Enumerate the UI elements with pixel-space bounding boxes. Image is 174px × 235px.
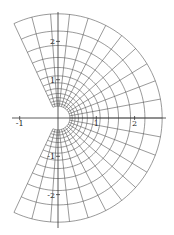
x-tick-label: 1 bbox=[94, 119, 99, 128]
mesh-spoke bbox=[65, 127, 121, 200]
mesh-spoke bbox=[68, 64, 147, 112]
mesh-spoke bbox=[65, 36, 121, 109]
polar-mesh-plot: -11221-1-2 bbox=[0, 0, 174, 235]
y-tick-label: -2 bbox=[47, 191, 55, 200]
mesh-spoke bbox=[70, 99, 161, 116]
y-tick-label: 1 bbox=[50, 76, 55, 85]
mesh-spoke bbox=[14, 24, 53, 108]
y-tick-label: -1 bbox=[47, 152, 55, 161]
mesh-spoke bbox=[70, 120, 161, 137]
mesh-spoke bbox=[67, 49, 136, 111]
axes bbox=[12, 12, 166, 228]
mesh-spoke bbox=[59, 130, 69, 222]
mesh-spoke bbox=[67, 126, 136, 188]
mesh-spoke bbox=[14, 129, 53, 213]
x-tick-label: -1 bbox=[16, 119, 24, 128]
mesh-spoke bbox=[59, 14, 69, 106]
x-tick-label: 2 bbox=[132, 119, 137, 128]
mesh-spoke bbox=[68, 124, 147, 172]
y-tick-label: 2 bbox=[50, 37, 55, 46]
tick-labels: -11221-1-2 bbox=[16, 37, 137, 199]
